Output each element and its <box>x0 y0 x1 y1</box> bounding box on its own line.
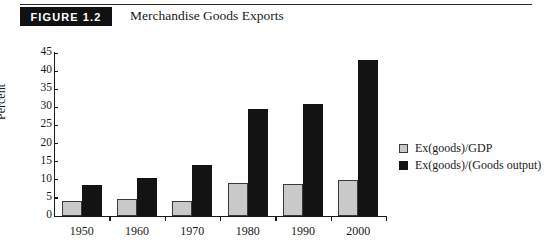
bar-ex-goods-output <box>82 185 102 216</box>
x-axis-tick-mark <box>109 216 110 221</box>
chart-legend: Ex(goods)/GDP Ex(goods)/(Goods output) <box>399 140 541 174</box>
bar-group <box>62 53 102 216</box>
bar-ex-goods-output <box>303 104 323 216</box>
y-axis-label: Percent <box>0 84 9 120</box>
figure-header: FIGURE 1.2 Merchandise Goods Exports <box>0 0 553 34</box>
bar-ex-goods-gdp <box>283 184 303 216</box>
y-axis-tick-label: 5 <box>46 190 52 202</box>
bar-ex-goods-output <box>248 109 268 216</box>
x-axis-tick-label: 1960 <box>107 224 167 239</box>
bar-ex-goods-gdp <box>172 201 192 216</box>
x-axis-tick-label: 1970 <box>162 224 222 239</box>
bar-ex-goods-output <box>192 165 212 216</box>
bar-group <box>117 53 157 216</box>
bar-ex-goods-output <box>137 178 157 216</box>
legend-item-ex-goods-output: Ex(goods)/(Goods output) <box>399 157 541 174</box>
bar-group <box>338 53 378 216</box>
y-axis-tick-label: 35 <box>41 81 53 93</box>
legend-label: Ex(goods)/GDP <box>415 141 492 156</box>
x-axis-tick-label: 1980 <box>218 224 278 239</box>
x-axis-tick-mark <box>165 216 166 221</box>
bar-ex-goods-output <box>358 60 378 216</box>
bar-ex-goods-gdp <box>338 180 358 216</box>
header-divider <box>20 4 532 5</box>
x-axis-tick-mark <box>220 216 221 221</box>
figure-number-badge: FIGURE 1.2 <box>20 7 112 26</box>
x-axis-tick-label: 1990 <box>273 224 333 239</box>
x-axis-tick-mark <box>386 216 387 221</box>
y-axis-tick-label: 15 <box>41 154 53 166</box>
y-axis-tick-label: 40 <box>41 63 53 75</box>
bar-group <box>172 53 212 216</box>
figure-title: Merchandise Goods Exports <box>130 8 284 24</box>
y-axis-tick-label: 30 <box>41 99 53 111</box>
legend-label: Ex(goods)/(Goods output) <box>415 158 541 173</box>
y-axis-tick-label: 25 <box>41 117 53 129</box>
chart-area: Percent 051015202530354045 1950196019701… <box>0 34 553 248</box>
square-filled-icon <box>399 161 408 170</box>
bar-ex-goods-gdp <box>117 199 137 216</box>
bar-ex-goods-gdp <box>62 201 82 216</box>
x-axis-tick-label: 2000 <box>328 224 388 239</box>
bar-ex-goods-gdp <box>228 183 248 216</box>
y-axis-tick-label: 0 <box>46 208 52 220</box>
legend-item-ex-goods-gdp: Ex(goods)/GDP <box>399 140 541 157</box>
x-axis-tick-mark <box>275 216 276 221</box>
plot-bars <box>54 53 386 216</box>
bar-group <box>228 53 268 216</box>
x-axis-tick-label: 1950 <box>52 224 112 239</box>
y-axis-tick-label: 20 <box>41 136 53 148</box>
y-axis-tick-label: 10 <box>41 172 53 184</box>
bar-group <box>283 53 323 216</box>
x-axis-tick-mark <box>331 216 332 221</box>
y-axis-tick-label: 45 <box>41 45 53 57</box>
square-outline-icon <box>399 144 408 153</box>
